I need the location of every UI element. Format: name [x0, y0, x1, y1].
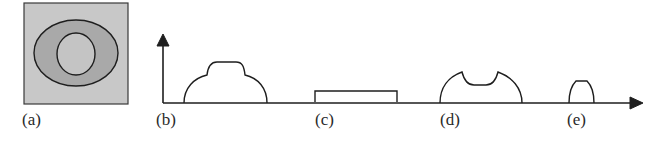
profile-c [315, 91, 397, 102]
profile-b [184, 62, 267, 103]
inner-circle [57, 33, 95, 75]
panel-a-image [24, 3, 128, 104]
label-e: (e) [567, 110, 586, 130]
label-a: (a) [22, 110, 41, 130]
profile-d [440, 72, 522, 103]
profile-e [569, 81, 594, 103]
x-axis-arrow-icon [630, 97, 643, 109]
label-b: (b) [156, 110, 176, 130]
label-d: (d) [440, 110, 460, 130]
axes [157, 34, 643, 109]
label-c: (c) [315, 110, 334, 130]
y-axis-arrow-icon [157, 34, 169, 46]
